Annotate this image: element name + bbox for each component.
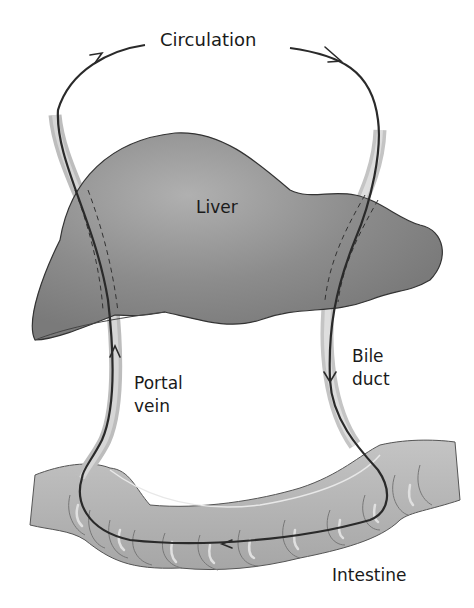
- label-bile-duct-line1: Bile: [352, 346, 384, 366]
- enterohepatic-diagram: Circulation Liver Portal vein Bile duct …: [0, 0, 474, 608]
- label-portal-vein-line2: vein: [134, 396, 170, 416]
- arrow-icon-circulation-right: [325, 47, 341, 62]
- label-liver: Liver: [196, 197, 238, 217]
- label-circulation: Circulation: [160, 30, 256, 50]
- arrow-icon-circulation-left: [90, 53, 102, 63]
- label-intestine: Intestine: [332, 565, 406, 585]
- label-bile-duct-line2: duct: [352, 369, 390, 389]
- diagram-canvas: [0, 0, 474, 608]
- label-portal-vein-line1: Portal: [134, 373, 183, 393]
